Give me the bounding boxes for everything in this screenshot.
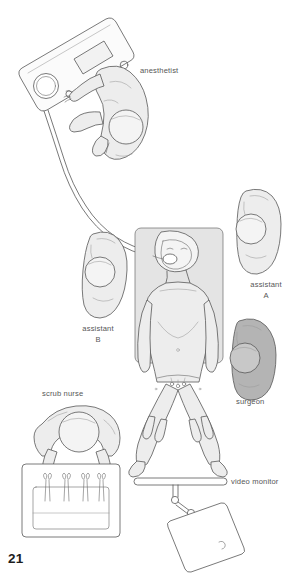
label-video-monitor: video monitor [231,477,279,486]
instrument-table [22,464,120,537]
video-monitor [134,478,245,572]
label-assistant-b-line2: B [95,335,100,344]
patient-mouth-tube-fitting [163,254,177,264]
patient-torso [146,282,211,382]
staff-surgeon [230,319,276,400]
anesthetist-head [109,110,143,144]
label-scrub-nurse: scrub nurse [42,389,83,398]
page-number: 21 [8,551,24,566]
anesthetist-arm-lower [70,112,104,132]
label-assistant-b-line1: assistant [82,324,114,333]
machine-dial-outer [34,74,59,99]
label-anesthetist: anesthetist [140,66,179,75]
patient-foot-left [129,461,145,477]
staff-assistant-a [236,189,281,274]
patient-foot-right [211,461,227,477]
label-assistant-a-line2: A [263,291,269,300]
surgical-layout-figure: anesthetist assistant A assistant B surg… [0,0,307,585]
monitor-screen [167,503,244,572]
staff-assistant-b [82,232,127,318]
monitor-joint-upper [171,496,178,503]
label-assistant-a-line1: assistant [250,280,282,289]
patient-leg-right [178,384,220,466]
patient-leg-left [136,384,178,466]
monitor-ceiling-rail [134,478,227,485]
label-surgeon: surgeon [236,397,265,406]
